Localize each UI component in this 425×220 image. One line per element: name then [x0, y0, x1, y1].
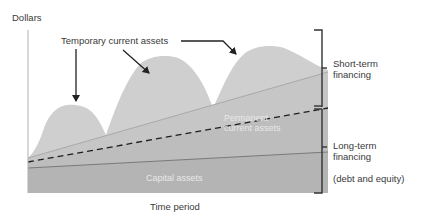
- x-axis-label: Time period: [150, 201, 200, 212]
- long-term-label-1: Long-term: [333, 140, 376, 151]
- permanent-assets-label-2: current assets: [224, 123, 281, 133]
- temporary-assets-label: Temporary current assets: [61, 35, 168, 46]
- capital-assets-label: Capital assets: [146, 173, 203, 183]
- short-term-label-2: financing: [333, 69, 371, 80]
- long-term-label-2: financing: [333, 151, 371, 162]
- debt-equity-label: (debt and equity): [333, 173, 404, 184]
- short-term-label-1: Short-term: [333, 58, 378, 69]
- permanent-assets-label-1: Permanent: [224, 113, 268, 123]
- financing-diagram: [0, 0, 425, 220]
- arrow-icon: [181, 41, 236, 54]
- y-axis-label: Dollars: [12, 12, 42, 23]
